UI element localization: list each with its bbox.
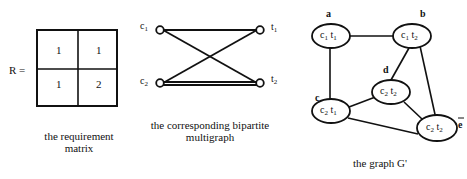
bipartite-caption: the corresponding bipartite multigraph (145, 119, 275, 143)
matrix-cell-r2c2: 2 (96, 78, 102, 90)
graph-caption: the graph G' (340, 157, 420, 169)
node-c1 (156, 26, 164, 34)
svg-text:t2: t2 (271, 73, 278, 86)
svg-text:c2: c2 (140, 75, 148, 88)
matrix-caption: the requirement matrix (20, 130, 138, 154)
vertex-letter-a: a (326, 8, 331, 19)
requirement-matrix: R = 1 1 1 2 (9, 30, 117, 106)
matrix-label: R = (9, 64, 25, 76)
matrix-caption-line2: matrix (20, 142, 138, 154)
bipartite-multigraph (156, 26, 264, 87)
bipartite-caption-line2: multigraph (145, 131, 275, 143)
node-t2 (256, 79, 264, 87)
matrix-caption-line1: the requirement (20, 130, 138, 142)
vertex-letter-b: b (420, 8, 426, 19)
vertex-letter-c: c (315, 92, 320, 103)
node-c2 (156, 79, 164, 87)
bipartite-caption-line1: the corresponding bipartite (145, 119, 275, 131)
matrix-cell-r2c1: 1 (56, 78, 62, 90)
svg-text:c1: c1 (140, 20, 148, 33)
vertex-letter-e: e (458, 119, 463, 130)
matrix-cell-r1c1: 1 (56, 44, 62, 56)
node-t1 (256, 26, 264, 34)
vertex-letter-d: d (383, 64, 389, 75)
matrix-cell-r1c2: 1 (96, 44, 102, 56)
svg-text:t1: t1 (271, 21, 278, 34)
